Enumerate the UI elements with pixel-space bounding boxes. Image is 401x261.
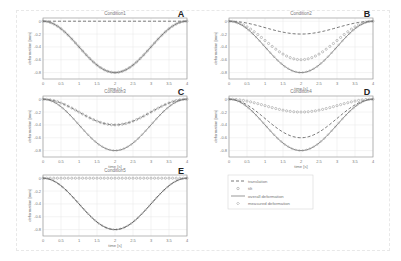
x-tick-label: 2.5 <box>130 238 136 243</box>
y-tick-label: -0.8 <box>220 148 228 153</box>
x-tick-label: 0.5 <box>244 159 250 164</box>
panel-letter: A <box>178 9 185 19</box>
y-axis-label: deformation [mm] <box>213 110 218 143</box>
legend-label: overall deformation <box>248 194 284 199</box>
y-tick-label: 0 <box>39 19 42 24</box>
y-tick-label: 0 <box>225 19 228 24</box>
panel-title: Condition1 <box>104 11 126 16</box>
panel-b: 00.511.522.533.540-0.2-0.4-0.6-0.8time [… <box>213 9 375 91</box>
panel-d: 00.511.522.533.540-0.2-0.4-0.6-0.8time [… <box>213 87 375 169</box>
x-tick-label: 3 <box>150 238 153 243</box>
y-tick-label: -0.2 <box>220 110 228 115</box>
x-tick-label: 1.5 <box>94 159 100 164</box>
y-tick-label: -0.2 <box>34 32 42 37</box>
x-tick-label: 4 <box>372 159 375 164</box>
y-tick-label: -0.8 <box>220 70 228 75</box>
x-tick-label: 4 <box>372 81 375 86</box>
x-tick-label: 0 <box>42 238 45 243</box>
y-axis-label: deformation [mm] <box>27 189 32 222</box>
x-tick-label: 2.5 <box>316 159 322 164</box>
panel-letter: D <box>364 87 371 97</box>
x-tick-label: 1.5 <box>94 81 100 86</box>
x-tick-label: 0 <box>42 81 45 86</box>
y-tick-label: 0 <box>39 97 42 102</box>
x-tick-label: 1 <box>78 238 81 243</box>
y-tick-label: -0.8 <box>34 70 42 75</box>
y-tick-label: -0.2 <box>220 32 228 37</box>
x-tick-label: 1 <box>264 81 267 86</box>
x-tick-label: 1 <box>78 81 81 86</box>
x-tick-label: 3.5 <box>166 81 172 86</box>
x-tick-label: 1.5 <box>94 238 100 243</box>
x-tick-label: 3.5 <box>166 159 172 164</box>
x-axis-label: time [s] <box>108 243 122 248</box>
x-tick-label: 0 <box>42 159 45 164</box>
panel-a: 00.511.522.533.540-0.2-0.4-0.6-0.8time [… <box>27 9 189 91</box>
y-tick-label: -0.6 <box>34 135 42 140</box>
x-tick-label: 0.5 <box>58 81 64 86</box>
y-tick-label: -0.8 <box>34 227 42 232</box>
x-tick-label: 1.5 <box>280 159 286 164</box>
x-tick-label: 2.5 <box>316 81 322 86</box>
legend: translationtiltoverall deformationmeasur… <box>228 175 313 209</box>
y-tick-label: -0.6 <box>34 57 42 62</box>
x-tick-label: 3.5 <box>166 238 172 243</box>
x-tick-label: 1 <box>264 159 267 164</box>
legend-label: translation <box>248 179 268 184</box>
panel-title: Condition2 <box>290 11 312 16</box>
y-tick-label: -0.6 <box>220 135 228 140</box>
figure: 00.511.522.533.540-0.2-0.4-0.6-0.8time [… <box>0 0 401 261</box>
y-tick-label: -0.2 <box>34 189 42 194</box>
x-tick-label: 0 <box>228 81 231 86</box>
y-axis-label: deformation [mm] <box>213 32 218 65</box>
y-tick-label: -0.4 <box>34 201 42 206</box>
x-tick-label: 2.5 <box>130 81 136 86</box>
x-tick-label: 2.5 <box>130 159 136 164</box>
y-tick-label: -0.6 <box>220 57 228 62</box>
x-tick-label: 1.5 <box>280 81 286 86</box>
x-tick-label: 3.5 <box>352 159 358 164</box>
x-tick-label: 4 <box>186 81 189 86</box>
x-tick-label: 0 <box>228 159 231 164</box>
y-tick-label: -0.2 <box>34 110 42 115</box>
panel-title: Condition5 <box>104 168 126 173</box>
panel-letter: B <box>364 9 371 19</box>
x-tick-label: 3 <box>336 81 339 86</box>
panel-c: 00.511.522.533.540-0.2-0.4-0.6-0.8time [… <box>27 87 189 169</box>
x-tick-label: 0.5 <box>58 159 64 164</box>
x-tick-label: 3 <box>150 159 153 164</box>
x-axis-label: time [s] <box>294 164 308 169</box>
panel-title: Condition4 <box>290 89 312 94</box>
y-tick-label: -0.4 <box>220 44 228 49</box>
x-tick-label: 0.5 <box>244 81 250 86</box>
y-tick-label: -0.4 <box>220 122 228 127</box>
x-tick-label: 3.5 <box>352 81 358 86</box>
y-tick-label: -0.6 <box>34 214 42 219</box>
panel-title: Condition3 <box>104 89 126 94</box>
x-tick-label: 3 <box>336 159 339 164</box>
x-tick-label: 3 <box>150 81 153 86</box>
y-tick-label: 0 <box>39 176 42 181</box>
panel-e: 00.511.522.533.540-0.2-0.4-0.6-0.8time [… <box>27 166 189 248</box>
y-axis-label: deformation [mm] <box>27 110 32 143</box>
panel-letter: E <box>178 166 184 176</box>
x-tick-label: 0.5 <box>58 238 64 243</box>
x-tick-label: 4 <box>186 238 189 243</box>
x-tick-label: 1 <box>78 159 81 164</box>
y-tick-label: 0 <box>225 97 228 102</box>
y-axis-label: deformation [mm] <box>27 32 32 65</box>
y-tick-label: -0.4 <box>34 44 42 49</box>
y-tick-label: -0.4 <box>34 122 42 127</box>
x-tick-label: 4 <box>186 159 189 164</box>
panel-letter: C <box>178 87 185 97</box>
y-tick-label: -0.8 <box>34 148 42 153</box>
legend-label: measured deformation <box>248 201 291 206</box>
